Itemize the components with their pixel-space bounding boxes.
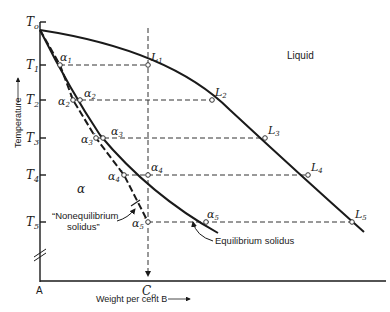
nonequilibrium-annotation-line2: solidus” — [67, 221, 100, 232]
label-l3: L3 — [267, 124, 280, 138]
y-axis-label: Temperature — [13, 97, 23, 148]
equilibrium-annotation: Equilibrium solidus — [215, 235, 294, 246]
label-t1: T1 — [26, 58, 39, 74]
label-alpha4-prime: α4′ — [108, 168, 123, 184]
label-t5: T5 — [26, 215, 39, 231]
label-alpha5: α5 — [207, 208, 219, 222]
label-alpha5-prime: α5′ — [132, 215, 147, 231]
point-l4 — [306, 173, 311, 178]
label-alpha3-prime: α3′ — [81, 131, 96, 147]
x-axis-label: Weight per cent B — [96, 294, 167, 304]
point-l1 — [146, 63, 151, 68]
origin-label: A — [36, 285, 43, 296]
point-alpha2 — [78, 98, 83, 103]
point-l3 — [263, 136, 268, 141]
label-alpha2: α2 — [84, 87, 96, 101]
label-alpha3: α3 — [111, 125, 123, 139]
label-t4: T4 — [26, 168, 39, 184]
point-alpha4 — [146, 173, 151, 178]
label-t0: To — [26, 15, 39, 31]
point-l5 — [350, 220, 355, 225]
label-l4: L4 — [310, 161, 323, 175]
label-t3: T3 — [26, 131, 39, 147]
phase-diagram: To T1 T2 T3 T4 T5 Temperature A Co Weigh… — [0, 0, 390, 312]
axes — [34, 22, 386, 282]
points — [58, 63, 355, 225]
y-axis-label-group: Temperature — [13, 78, 23, 148]
label-l5: L5 — [354, 208, 367, 222]
label-alpha4: α4 — [151, 161, 163, 175]
temperature-tick-labels: To T1 T2 T3 T4 T5 — [26, 15, 39, 231]
label-t2: T2 — [26, 93, 39, 109]
region-liquid: Liquid — [287, 50, 314, 61]
point-alpha3 — [101, 136, 106, 141]
region-alpha: α — [77, 182, 85, 196]
label-l2: L2 — [214, 86, 227, 100]
liquidus-curve — [40, 30, 364, 232]
label-alpha1: α1 — [60, 51, 72, 65]
label-l1: L1 — [150, 51, 163, 65]
point-l2 — [210, 98, 215, 103]
nonequilibrium-annotation-line1: “Nonequilibrium — [52, 210, 119, 221]
label-alpha2-prime: α2′ — [58, 93, 73, 109]
